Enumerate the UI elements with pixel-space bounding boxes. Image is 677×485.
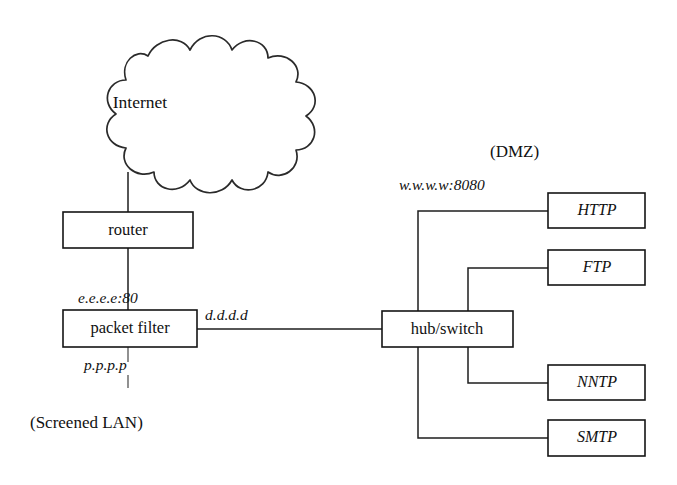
connector-hubswitch-ftp	[468, 268, 548, 311]
connector-hubswitch-smtp	[418, 347, 548, 438]
node-smtp: SMTP	[548, 420, 645, 456]
zone-label-screened-lan: (Screened LAN)	[30, 413, 143, 432]
diagram-canvas: Internet router packet filter	[0, 0, 677, 485]
internet-cloud-node: Internet	[107, 36, 315, 193]
zone-label-dmz: (DMZ)	[490, 142, 539, 161]
smtp-label: SMTP	[577, 428, 617, 445]
edge-label-web-address: w.w.w.w:8080	[399, 176, 485, 193]
network-diagram: Internet router packet filter	[0, 0, 677, 485]
nntp-label: NNTP	[576, 373, 617, 390]
node-ftp: FTP	[548, 250, 645, 285]
node-packet-filter: packet filter	[63, 310, 197, 347]
node-hub-switch: hub/switch	[382, 311, 513, 347]
node-nntp: NNTP	[548, 365, 645, 400]
edge-label-private-address: p.p.p.p	[83, 356, 127, 373]
edge-label-external-address: e.e.e.e:80	[78, 289, 138, 306]
connector-hubswitch-nntp	[468, 347, 548, 383]
edge-label-dmz-gateway-address: d.d.d.d	[205, 306, 248, 323]
node-http: HTTP	[548, 193, 645, 228]
hub-switch-label: hub/switch	[411, 319, 484, 338]
router-label: router	[108, 220, 148, 239]
http-label: HTTP	[576, 201, 616, 218]
node-router: router	[63, 212, 193, 248]
packet-filter-label: packet filter	[90, 318, 170, 337]
ftp-label: FTP	[582, 258, 612, 275]
internet-cloud-icon	[107, 36, 315, 193]
connector-hubswitch-http	[418, 211, 548, 311]
internet-cloud-label: Internet	[113, 92, 168, 112]
